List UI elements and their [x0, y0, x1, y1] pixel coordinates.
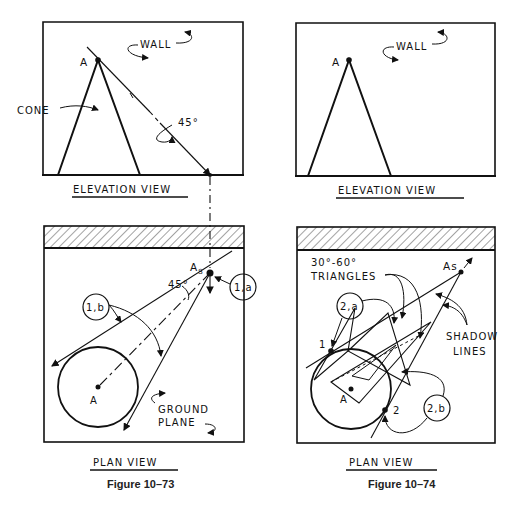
step-1a-label: 1,a: [234, 282, 253, 293]
shadow-lines-label-2: LINES: [453, 346, 487, 357]
shadow-point-label-right: As: [443, 260, 458, 272]
ground-label-2: PLANE: [158, 417, 195, 428]
point-1-label: 1: [319, 339, 326, 350]
triangles-label-2: TRIANGLES: [310, 271, 376, 282]
step-1b-label: 1,b: [86, 302, 105, 313]
plan-angle-label: 45°: [168, 279, 189, 290]
cone-label: CONE: [17, 105, 50, 116]
point-a-label-right: A: [332, 56, 340, 68]
figure-10-74: A WALL ELEVATION VIEW A As: [295, 23, 498, 490]
elevation-title-left: ELEVATION VIEW: [73, 184, 171, 195]
step-2b-label: 2,b: [427, 403, 446, 414]
plan-title-left: PLAN VIEW: [93, 457, 157, 468]
wall-label-right: WALL: [396, 41, 427, 52]
elevation-title-right: ELEVATION VIEW: [338, 185, 436, 196]
plan-view-left: A AS 45° 1,a 1,b GROUND PLANE PL: [44, 226, 256, 490]
figure-caption-74: Figure 10–74: [368, 478, 436, 490]
figure-caption-73: Figure 10–73: [107, 478, 174, 490]
shadow-lines-label-1: SHADOW: [446, 331, 498, 342]
shadow-construction-diagram: A WALL CONE 45° ELEVATION VIEW: [0, 0, 519, 507]
wall-hatch: [44, 226, 244, 248]
figure-10-73: A WALL CONE 45° ELEVATION VIEW: [17, 22, 256, 490]
cone-outline: [58, 60, 140, 175]
angle-45-label: 45°: [178, 117, 199, 128]
cone-outline-right: [308, 60, 391, 176]
point-a-label: A: [80, 56, 88, 68]
wall-label: WALL: [140, 39, 171, 50]
triangles-label-1: 30°-60°: [311, 257, 357, 268]
step-2a-label: 2,a: [340, 301, 359, 312]
ground-label-1: GROUND: [158, 404, 209, 415]
point-a-plan-label-right: A: [340, 394, 348, 405]
point-a-plan-label: A: [90, 395, 98, 406]
wall-hatch-right: [297, 227, 495, 250]
plan-title-right: PLAN VIEW: [349, 457, 413, 468]
plan-view-right: A As 1 2 30°-60° TRIANGLES 2,a: [297, 227, 498, 490]
point-2-label: 2: [393, 405, 400, 416]
elevation-view-right: A WALL ELEVATION VIEW: [295, 23, 496, 198]
